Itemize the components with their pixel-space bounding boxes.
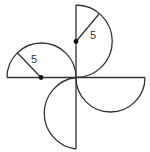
top-center-dot	[74, 39, 79, 44]
top-radius-label: 5	[90, 29, 96, 41]
right-semicircle	[76, 78, 145, 113]
left-radius-label: 5	[31, 53, 37, 65]
left-center-dot	[39, 75, 44, 80]
top-semicircle	[76, 5, 112, 78]
pinwheel-diagram: 5 5	[0, 0, 150, 152]
left-radius-segment	[17, 53, 41, 78]
left-semicircle	[7, 43, 76, 78]
bottom-semicircle	[44, 78, 76, 150]
